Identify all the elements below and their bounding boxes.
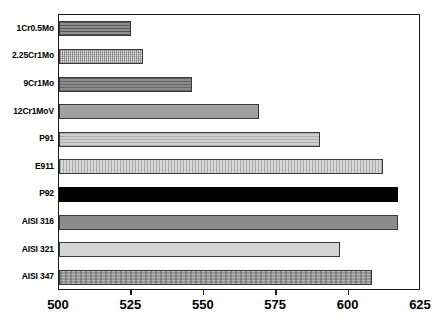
bar-e911 [59,159,383,174]
bar-2-25cr1mo [59,49,143,64]
bar-aisi-316 [59,215,398,230]
bar-12cr1mov [59,104,259,119]
x-axis-tick-550 [203,290,204,295]
bar-9cr1mo [59,77,192,92]
plot-area [58,14,420,290]
bar-p91 [59,132,320,147]
y-axis-label-p92: P92 [0,188,54,198]
y-axis-label-e911: E911 [0,161,54,171]
bar-aisi-347 [59,270,372,285]
y-axis-label-9cr1mo: 9Cr1Mo [0,78,54,88]
y-axis-label-aisi-347: AISI 347 [0,271,54,281]
bar-p92 [59,187,398,202]
y-axis-label-aisi-321: AISI 321 [0,244,54,254]
bar-1cr0-5mo [59,21,131,36]
bar-aisi-321 [59,242,340,257]
x-axis-tick-label-600: 600 [318,297,378,312]
x-axis-tick-label-625: 625 [390,297,436,312]
y-axis-label-1cr0-5mo: 1Cr0.5Mo [0,23,54,33]
y-axis-label-12cr1mov: 12Cr1MoV [0,106,54,116]
y-axis-category-labels: 1Cr0.5Mo2.25Cr1Mo9Cr1Mo12Cr1MoVP91E911P9… [0,14,54,290]
x-axis-tick-labels: 500525550575600625 [0,297,436,319]
y-axis-label-2-25cr1mo: 2.25Cr1Mo [0,50,54,60]
x-axis-tick-label-525: 525 [100,297,160,312]
x-axis-tick-575 [275,290,276,295]
x-axis-tick-label-500: 500 [28,297,88,312]
x-axis-tick-label-575: 575 [245,297,305,312]
x-axis-ticks [58,290,420,296]
bar-chart: 1Cr0.5Mo2.25Cr1Mo9Cr1Mo12Cr1MoVP91E911P9… [0,0,436,325]
y-axis-label-p91: P91 [0,133,54,143]
x-axis-tick-525 [130,290,131,295]
y-axis-label-aisi-316: AISI 316 [0,216,54,226]
x-axis-tick-600 [348,290,349,295]
x-axis-tick-label-550: 550 [173,297,233,312]
